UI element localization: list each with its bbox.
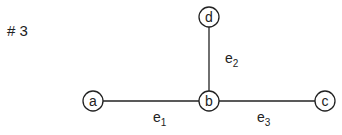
edge-e1-label: e1 [153,109,167,128]
node-c-label: c [322,93,329,109]
node-a-label: a [89,93,97,109]
edge-e2-label: e2 [225,50,239,69]
node-b-label: b [205,93,213,109]
node-d-label: d [205,9,213,25]
edge-e3-label: e3 [257,109,271,128]
graph-diagram: a b c d e1 e2 e3 [0,0,342,135]
